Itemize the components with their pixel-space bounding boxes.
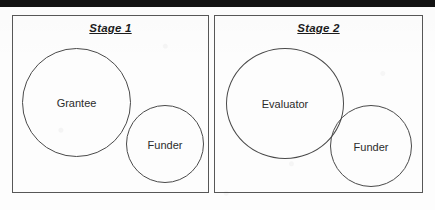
circle-label-funder-stage-2: Funder <box>331 141 411 153</box>
circle-label-funder-stage-1: Funder <box>127 139 203 151</box>
circle-evaluator: Evaluator <box>226 48 344 159</box>
circle-funder-stage-2: Funder <box>330 105 412 187</box>
scan-artifact-band <box>0 0 435 7</box>
circle-label-grantee: Grantee <box>23 97 130 109</box>
panel-stage-1: Stage 1 Grantee Funder <box>12 15 209 193</box>
circle-grantee: Grantee <box>22 48 131 157</box>
diagram-canvas: Stage 1 Grantee Funder Stage 2 Evaluator… <box>0 0 435 210</box>
panel-stage-2: Stage 2 Evaluator Funder <box>214 15 423 193</box>
panel-title-stage-1: Stage 1 <box>13 22 208 34</box>
panel-title-stage-2: Stage 2 <box>215 22 422 34</box>
circle-funder-stage-1: Funder <box>126 105 204 183</box>
circle-label-evaluator: Evaluator <box>227 98 343 110</box>
